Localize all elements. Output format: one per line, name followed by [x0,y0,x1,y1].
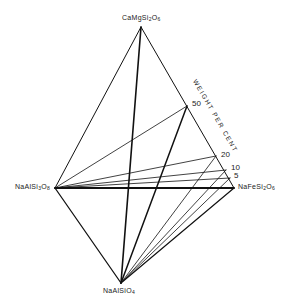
tie-left-10 [55,170,226,188]
edge-top-right [141,27,234,188]
tick-label-20: 20 [221,150,230,159]
tick-label-5: 5 [234,171,238,180]
phase-diagram [0,0,287,306]
tie-bottom-10 [121,170,226,283]
edge-top-left [55,27,141,188]
edge-top-bottom [121,27,141,283]
tick-label-50: 50 [192,99,201,108]
edge-left-bottom [55,188,121,283]
tie-bottom-50 [121,106,187,283]
vertex-label-top: CaMgSi2O6 [122,14,161,22]
vertex-label-bottom: NaAlSiO4 [103,287,135,295]
vertex-label-right: NaFeSi2O6 [238,183,275,191]
tie-left-50 [55,106,187,188]
tie-bottom-5 [121,178,230,283]
tie-bottom-20 [121,156,216,283]
vertex-label-left: NaAlSi3O8 [15,183,50,191]
